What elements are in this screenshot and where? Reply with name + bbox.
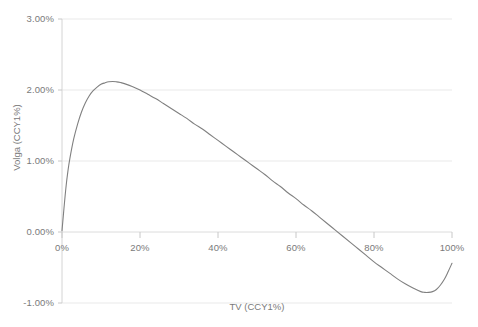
y-tick-label-3pct: 3.00%: [8, 13, 54, 24]
y-tick-label-neg1pct: -1.00%: [8, 297, 54, 308]
x-tick-label-100: 100%: [429, 242, 475, 253]
y-axis-title: Volga (CCY1%): [11, 88, 22, 188]
data-series-volga: [62, 81, 452, 292]
x-tick-label-40: 40%: [195, 242, 241, 253]
y-tick-label-0pct: 0.00%: [8, 226, 54, 237]
x-tick-label-20: 20%: [117, 242, 163, 253]
chart-plot-area: [0, 0, 478, 327]
x-axis-title: TV (CCY1%): [62, 301, 452, 312]
chart-container: 3.00% 2.00% 1.00% 0.00% -1.00% 0% 20% 40…: [0, 0, 478, 327]
x-tick-label-0: 0%: [39, 242, 85, 253]
x-tick-label-60: 60%: [273, 242, 319, 253]
gridlines: [62, 19, 452, 303]
x-tick-label-80: 80%: [351, 242, 397, 253]
